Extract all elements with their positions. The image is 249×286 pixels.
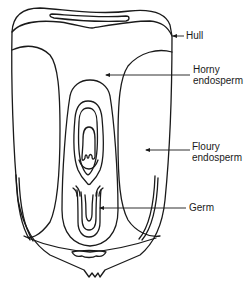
label-germ: Germ [189,202,214,213]
label-hull-line-1: Hull [186,30,203,41]
label-horny-endosperm-line-2: endosperm [193,75,243,86]
hull-inner-line [12,21,172,36]
right-side-line-2 [139,176,155,239]
label-hull: Hull [186,30,203,41]
plumule [82,127,95,160]
label-germ-line-1: Germ [189,202,214,213]
label-floury-endosperm: Floury endosperm [192,141,242,163]
hull-arrowhead [172,34,177,38]
top-pocket [50,14,129,21]
radicle-mid [81,192,97,230]
radicle-inner [85,195,93,221]
label-floury-endosperm-line-1: Floury [192,141,242,152]
label-horny-endosperm: Horny endosperm [193,64,243,86]
horny-endosperm-arrowhead [105,73,110,77]
label-floury-endosperm-line-2: endosperm [192,152,242,163]
label-horny-endosperm-line-1: Horny [193,64,243,75]
floury-endosperm-arrowhead [145,148,150,152]
